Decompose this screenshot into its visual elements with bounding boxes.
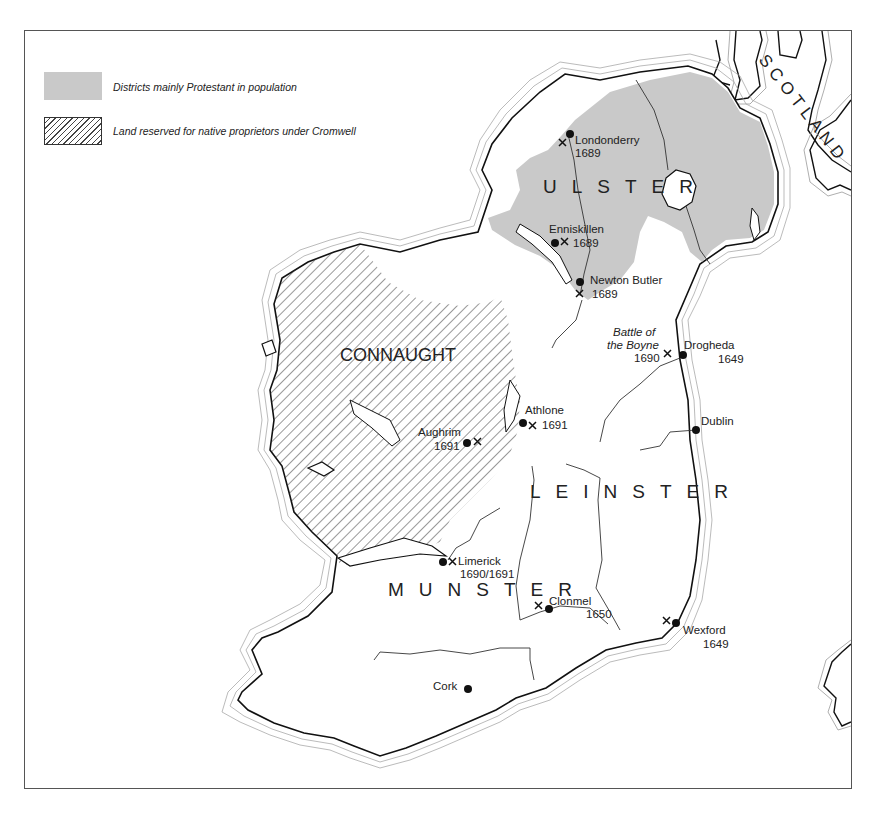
place-label-limerick: Limerick (458, 556, 501, 568)
drogheda-dot (679, 351, 687, 359)
place-label-aughrim: Aughrim (418, 427, 461, 439)
place-year-aughrim: 1691 (434, 441, 460, 453)
dublin-dot (692, 426, 700, 434)
place-label-boyne-line2: the Boyne (607, 340, 659, 352)
ireland-map: SCOTLAND (0, 0, 878, 821)
limerick-dot (439, 558, 447, 566)
place-year-newton-butler: 1689 (592, 289, 618, 301)
place-label-enniskillen: Enniskillen (549, 224, 604, 236)
place-label-cork: Cork (433, 681, 457, 693)
place-label-wexford: Wexford (683, 625, 726, 637)
place-label-athlone: Athlone (525, 405, 564, 417)
wexford-dot (672, 619, 680, 627)
enniskillen-dot (551, 239, 559, 247)
place-label-newton-butler: Newton Butler (590, 275, 662, 287)
legend-label-protestant: Districts mainly Protestant in populatio… (113, 81, 297, 93)
legend-swatch-cromwell (44, 117, 102, 145)
place-label-boyne-line1: Battle of (613, 327, 655, 339)
region-label-leinster: LEINSTER (530, 482, 743, 501)
place-year-boyne: 1690 (634, 353, 660, 365)
place-label-drogheda: Drogheda (684, 340, 735, 352)
newton-butler-dot (576, 278, 584, 286)
legend-label-cromwell: Land reserved for native proprietors und… (113, 125, 356, 137)
cork-dot (464, 685, 472, 693)
place-year-drogheda: 1649 (718, 354, 744, 366)
londonderry-dot (566, 130, 574, 138)
aughrim-dot (463, 439, 471, 447)
place-year-londonderry: 1689 (575, 148, 601, 160)
place-year-wexford: 1649 (703, 639, 729, 651)
athlone-dot (519, 419, 527, 427)
region-label-connaught: CONNAUGHT (340, 346, 456, 364)
legend-swatch-protestant (44, 72, 102, 100)
region-label-ulster: ULSTER (543, 177, 708, 196)
place-year-athlone: 1691 (542, 420, 568, 432)
place-label-londonderry: Londonderry (575, 135, 640, 147)
place-year-limerick: 1690/1691 (460, 569, 514, 581)
place-year-clonmel: 1650 (586, 609, 612, 621)
wales-coast (818, 640, 851, 730)
place-year-enniskillen: 1689 (573, 238, 599, 250)
place-label-clonmel: Clonmel (549, 596, 591, 608)
place-label-dublin: Dublin (701, 416, 734, 428)
